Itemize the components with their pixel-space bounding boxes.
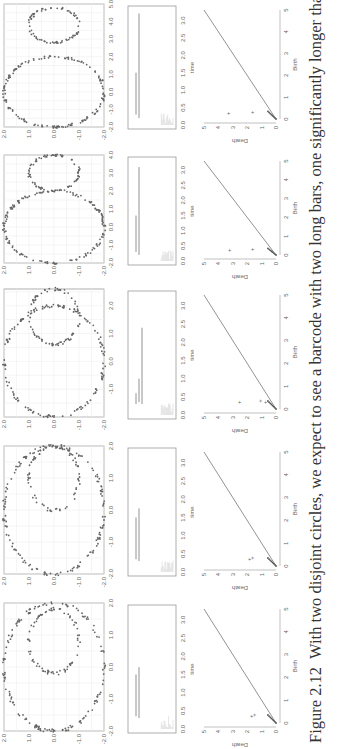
svg-text:+: + [249, 247, 255, 251]
figure-column-3: -2.0-1.00.01.02.0-1.00.01.02.00.00.51.01… [0, 285, 300, 435]
svg-text:3: 3 [230, 125, 236, 129]
svg-text:0: 0 [283, 253, 289, 257]
svg-text:-2.0: -2.0 [101, 129, 107, 140]
point-cloud-plot: -2.0-1.00.01.02.0-1.00.01.02.0 [0, 285, 118, 435]
svg-text:2.0: 2.0 [180, 50, 186, 59]
svg-text:0.0: 0.0 [180, 410, 186, 419]
svg-text:2.0: 2.0 [1, 265, 7, 274]
svg-text:2.0: 2.0 [108, 599, 114, 607]
svg-text:2.5: 2.5 [180, 180, 186, 189]
svg-text:3: 3 [230, 572, 236, 576]
svg-text:3: 3 [230, 729, 236, 733]
svg-text:1.0: 1.0 [26, 733, 32, 742]
svg-text:0.0: 0.0 [180, 724, 186, 733]
svg-text:2: 2 [244, 572, 250, 576]
svg-text:2.0: 2.0 [1, 576, 7, 585]
time-axis-label: time [189, 205, 194, 217]
svg-text:Death: Death [232, 274, 248, 280]
svg-text:1: 1 [283, 541, 289, 545]
persistence-diagram: ++012345012345BirthDeath [198, 599, 303, 749]
svg-text:1.0: 1.0 [108, 204, 114, 213]
svg-text:0.0: 0.0 [180, 567, 186, 576]
svg-text:0.5: 0.5 [180, 549, 186, 558]
svg-text:-2.0: -2.0 [108, 568, 114, 579]
svg-text:Birth: Birth [292, 202, 298, 214]
svg-text:0: 0 [283, 117, 289, 121]
svg-text:1.0: 1.0 [108, 473, 114, 482]
figure-column-1: -2.0-1.00.01.02.0-2.0-1.00.01.02.00.00.5… [0, 599, 300, 749]
point-cloud-plot: -2.0-1.00.01.02.0-2.0-1.00.01.02.0 [0, 599, 118, 749]
svg-text:1: 1 [259, 729, 265, 733]
svg-text:2.0: 2.0 [108, 186, 114, 195]
svg-text:2: 2 [283, 518, 289, 522]
svg-text:2.0: 2.0 [1, 733, 7, 742]
svg-text:1: 1 [259, 125, 265, 129]
point-cloud-plot: -2.0-1.00.01.02.0-2.0-1.00.01.02.0 [0, 442, 118, 592]
svg-text:0.0: 0.0 [51, 265, 57, 274]
svg-text:Death: Death [232, 138, 248, 144]
svg-text:0.5: 0.5 [180, 103, 186, 112]
svg-text:0.5: 0.5 [180, 706, 186, 715]
svg-text:1: 1 [283, 698, 289, 702]
svg-text:3.0: 3.0 [180, 165, 186, 174]
svg-text:2.0: 2.0 [180, 494, 186, 503]
svg-text:3.0: 3.0 [180, 615, 186, 624]
svg-text:0: 0 [273, 261, 279, 265]
svg-text:2.0: 2.0 [1, 129, 7, 138]
svg-text:2.0: 2.0 [108, 442, 114, 450]
svg-text:3.0: 3.0 [108, 168, 114, 177]
svg-text:-2.0: -2.0 [108, 725, 114, 736]
svg-text:0.0: 0.0 [108, 87, 114, 96]
svg-text:+: + [249, 110, 255, 114]
svg-text:1.0: 1.0 [180, 226, 186, 235]
svg-text:+: + [248, 714, 254, 718]
svg-text:-2.0: -2.0 [101, 576, 107, 587]
svg-text:5: 5 [283, 8, 289, 12]
svg-text:1: 1 [283, 384, 289, 388]
svg-text:0: 0 [273, 572, 279, 576]
svg-text:2: 2 [244, 125, 250, 129]
svg-text:4.0: 4.0 [108, 150, 114, 159]
svg-text:2.0: 2.0 [1, 419, 7, 428]
svg-text:1.0: 1.0 [108, 69, 114, 78]
rotated-page: -2.0-1.00.01.02.0-2.0-1.00.01.02.00.00.5… [0, 0, 356, 749]
svg-text:0.0: 0.0 [51, 129, 57, 138]
figure-column-5: -2.0-1.00.01.02.0-2.0-1.00.01.02.03.04.0… [0, 0, 300, 145]
svg-text:+: + [226, 248, 232, 252]
svg-text:Death: Death [232, 742, 248, 748]
svg-text:5: 5 [201, 261, 207, 265]
svg-text:Birth: Birth [292, 346, 298, 358]
svg-text:4: 4 [283, 29, 289, 33]
persistence-diagram: ++012345012345BirthDeath [198, 131, 303, 281]
svg-text:2: 2 [283, 73, 289, 77]
svg-text:5: 5 [201, 729, 207, 733]
barcode-plot: 0.00.51.01.52.02.53.0time [124, 0, 194, 145]
time-axis-label: time [189, 506, 194, 518]
svg-text:5: 5 [283, 159, 289, 163]
svg-text:0.0: 0.0 [51, 576, 57, 585]
svg-text:3.0: 3.0 [108, 34, 114, 43]
svg-text:3: 3 [283, 51, 289, 55]
svg-text:1.5: 1.5 [180, 68, 186, 77]
svg-text:-1.0: -1.0 [108, 536, 114, 547]
svg-text:5: 5 [283, 450, 289, 454]
svg-text:3.0: 3.0 [180, 16, 186, 25]
svg-text:-1.0: -1.0 [76, 733, 82, 744]
svg-text:0: 0 [283, 721, 289, 725]
caption-text: With two disjoint circles, we expect to … [306, 0, 325, 659]
svg-text:0.0: 0.0 [108, 357, 114, 366]
svg-text:0.0: 0.0 [51, 733, 57, 742]
persistence-diagram: +++012345012345BirthDeath [198, 285, 303, 435]
svg-text:2.0: 2.0 [108, 52, 114, 61]
figure-column-4: -2.0-1.00.01.02.0-2.0-1.00.01.02.03.04.0… [0, 151, 300, 281]
svg-text:0: 0 [273, 729, 279, 733]
point-cloud-plot: -2.0-1.00.01.02.0-2.0-1.00.01.02.03.04.0 [0, 131, 118, 281]
svg-text:4: 4 [215, 261, 221, 265]
time-axis-label: time [189, 61, 194, 73]
svg-text:1.0: 1.0 [180, 688, 186, 697]
barcode-plot: 0.00.51.01.52.02.53.0time [124, 442, 194, 592]
svg-text:-1.0: -1.0 [108, 693, 114, 704]
svg-text:4: 4 [283, 177, 289, 181]
svg-text:3.0: 3.0 [180, 301, 186, 310]
svg-text:-1.0: -1.0 [76, 419, 82, 430]
